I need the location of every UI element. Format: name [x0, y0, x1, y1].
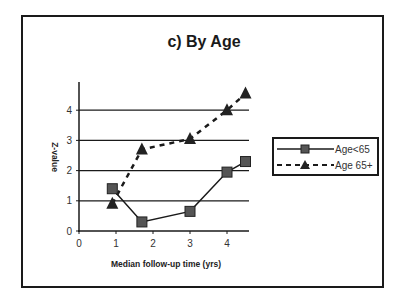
square-marker-icon — [222, 167, 232, 177]
gridlines — [79, 110, 249, 201]
x-tick-label: 1 — [113, 238, 119, 249]
legend-label-age-65-plus: Age 65+ — [335, 160, 373, 171]
triangle-marker-icon — [136, 142, 148, 154]
y-axis-label: Z-value — [50, 142, 60, 172]
plot-area: 0123401234 Median follow-up time (yrs) Z… — [0, 0, 408, 299]
x-tick-label: 3 — [187, 238, 193, 249]
legend: Age<65 Age 65+ — [273, 138, 378, 175]
y-tick-label: 4 — [66, 105, 72, 116]
square-marker-icon — [107, 184, 117, 194]
x-tick-label: 2 — [150, 238, 156, 249]
x-tick-label: 0 — [76, 238, 82, 249]
x-tick-label: 4 — [224, 238, 230, 249]
y-tick-label: 1 — [66, 195, 72, 206]
legend-square-marker-icon — [301, 145, 309, 153]
y-tick-label: 3 — [66, 135, 72, 146]
square-marker-icon — [137, 217, 147, 227]
axes: 0123401234 — [66, 82, 249, 249]
square-marker-icon — [185, 206, 195, 216]
x-axis-label: Median follow-up time (yrs) — [111, 259, 221, 269]
triangle-marker-icon — [240, 87, 252, 99]
triangle-marker-icon — [184, 132, 196, 144]
square-marker-icon — [241, 157, 251, 167]
y-tick-label: 2 — [66, 165, 72, 176]
legend-label-age-under-65: Age<65 — [335, 144, 370, 155]
series-layer — [106, 87, 251, 227]
triangle-marker-icon — [106, 197, 118, 209]
y-tick-label: 0 — [66, 226, 72, 237]
